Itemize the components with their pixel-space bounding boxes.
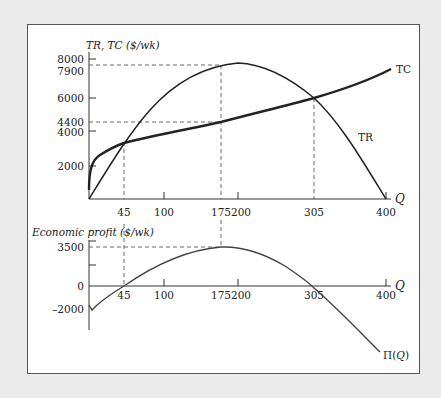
top-y-ticks bbox=[89, 59, 96, 166]
top-x-tick-400: 400 bbox=[376, 206, 396, 218]
top-x-tick-200: 200 bbox=[231, 206, 251, 218]
top-x-tick-305: 305 bbox=[304, 206, 324, 218]
profit-label: Π(Q) bbox=[383, 349, 409, 362]
top-y-tick-4000: 4000 bbox=[57, 126, 84, 138]
top-y-tick-7900: 7900 bbox=[57, 65, 84, 77]
top-x-tick-175: 175 bbox=[211, 206, 231, 218]
top-y-tick-2000: 2000 bbox=[57, 160, 84, 172]
tc-label: TC bbox=[396, 63, 411, 75]
top-reference-lines bbox=[89, 65, 314, 199]
bottom-y-ticks bbox=[89, 241, 96, 265]
bottom-x-tick-45: 45 bbox=[117, 289, 130, 301]
top-q-label: Q bbox=[395, 192, 405, 206]
bottom-x-tick-200: 200 bbox=[231, 289, 251, 301]
bottom-y-tick-0: 0 bbox=[77, 280, 84, 292]
tr-curve bbox=[89, 63, 386, 199]
bottom-chart: Economic profit ($/wk) Q 3500 0 –2000 45… bbox=[31, 220, 409, 362]
tr-label: TR bbox=[358, 131, 374, 143]
top-y-tick-8000: 8000 bbox=[57, 53, 84, 65]
top-x-ticks bbox=[164, 192, 386, 199]
chart-svg: TR, TC ($/wk) Q 8000 7900 6000 4400 4000… bbox=[0, 0, 441, 398]
top-x-tick-100: 100 bbox=[154, 206, 174, 218]
bottom-y-tick-neg2000: –2000 bbox=[52, 303, 84, 315]
bottom-x-tick-175: 175 bbox=[211, 289, 231, 301]
bottom-x-tick-100: 100 bbox=[154, 289, 174, 301]
bottom-x-tick-400: 400 bbox=[376, 289, 396, 301]
bottom-q-label: Q bbox=[395, 279, 405, 293]
bottom-y-axis-title: Economic profit ($/wk) bbox=[31, 226, 154, 238]
top-y-axis-title: TR, TC ($/wk) bbox=[86, 39, 160, 51]
top-chart: TR, TC ($/wk) Q 8000 7900 6000 4400 4000… bbox=[57, 39, 411, 218]
top-y-tick-6000: 6000 bbox=[57, 92, 84, 104]
bottom-x-ticks bbox=[164, 279, 386, 286]
bottom-y-tick-3500: 3500 bbox=[57, 241, 84, 253]
top-x-tick-45: 45 bbox=[117, 206, 130, 218]
